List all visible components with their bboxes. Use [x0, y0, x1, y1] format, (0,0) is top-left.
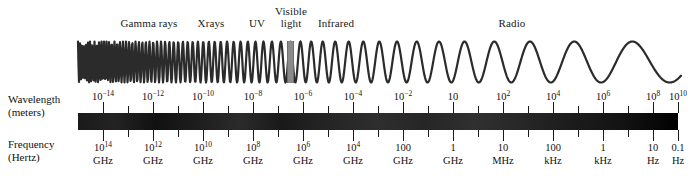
- wavelength-tick-minor: [478, 106, 479, 113]
- frequency-tick-major: [303, 130, 304, 141]
- frequency-tick-minor: [378, 130, 379, 137]
- wavelength-value: 10−10: [178, 91, 228, 103]
- frequency-tick-minor: [178, 130, 179, 137]
- frequency-tick-major: [353, 130, 354, 141]
- frequency-tick-major: [653, 130, 654, 141]
- frequency-value: 0.1Hz: [653, 142, 691, 167]
- frequency-value: 100kHz: [528, 142, 578, 167]
- frequency-axis-caption: Frequency (Hertz): [8, 138, 80, 163]
- wavelength-value: 10−6: [278, 91, 328, 103]
- wavelength-tick-major: [403, 102, 404, 113]
- frequency-tick-minor: [428, 130, 429, 137]
- frequency-value: 106GHz: [278, 142, 328, 167]
- wavelength-value: 10−8: [228, 91, 278, 103]
- frequency-tick-major: [453, 130, 454, 141]
- frequency-tick-minor: [278, 130, 279, 137]
- wavelength-tick-major: [253, 102, 254, 113]
- frequency-tick-major: [253, 130, 254, 141]
- frequency-tick-major: [553, 130, 554, 141]
- wavelength-tick-minor: [328, 106, 329, 113]
- spectrum-bar: [78, 113, 678, 130]
- wavelength-value: 10−12: [128, 91, 178, 103]
- wavelength-tick-minor: [628, 106, 629, 113]
- frequency-tick-minor: [128, 130, 129, 137]
- frequency-value: 1kHz: [578, 142, 628, 167]
- wavelength-tick-major: [203, 102, 204, 113]
- wavelength-value: 106: [578, 91, 628, 103]
- frequency-value: 108GHz: [228, 142, 278, 167]
- wavelength-tick-major: [678, 102, 679, 113]
- frequency-value: 1012GHz: [128, 142, 178, 167]
- wavelength-value: 10−4: [328, 91, 378, 103]
- frequency-value: 1GHz: [428, 142, 478, 167]
- wavelength-tick-minor: [128, 106, 129, 113]
- wavelength-value: 10−14: [78, 91, 128, 103]
- wavelength-tick-minor: [278, 106, 279, 113]
- wavelength-tick-major: [103, 102, 104, 113]
- wavelength-tick-major: [653, 102, 654, 113]
- wavelength-tick-major: [503, 102, 504, 113]
- frequency-tick-major: [678, 130, 679, 141]
- wavelength-tick-major: [303, 102, 304, 113]
- frequency-tick-minor: [578, 130, 579, 137]
- frequency-value: 1010GHz: [178, 142, 228, 167]
- wavelength-tick-minor: [428, 106, 429, 113]
- wavelength-tick-minor: [178, 106, 179, 113]
- wavelength-tick-minor: [578, 106, 579, 113]
- wavelength-tick-major: [353, 102, 354, 113]
- wavelength-tick-minor: [378, 106, 379, 113]
- frequency-tick-minor: [478, 130, 479, 137]
- frequency-tick-minor: [228, 130, 229, 137]
- wavelength-tick-major: [153, 102, 154, 113]
- frequency-value: 104GHz: [328, 142, 378, 167]
- wavelength-value: 1010: [653, 91, 691, 103]
- visible-light-marker: [287, 41, 294, 83]
- frequency-tick-major: [403, 130, 404, 141]
- wavelength-axis-caption: Wavelength (meters): [8, 93, 80, 118]
- frequency-tick-minor: [528, 130, 529, 137]
- wavelength-value: 10: [428, 91, 478, 103]
- wavelength-tick-minor: [528, 106, 529, 113]
- wavelength-tick-major: [553, 102, 554, 113]
- frequency-value: 100GHz: [378, 142, 428, 167]
- wavelength-value: 10−2: [378, 91, 428, 103]
- frequency-tick-minor: [628, 130, 629, 137]
- wavelength-tick-major: [453, 102, 454, 113]
- frequency-tick-major: [603, 130, 604, 141]
- frequency-tick-minor: [328, 130, 329, 137]
- wavelength-value: 102: [478, 91, 528, 103]
- em-spectrum-figure: Gamma rays Xrays UV Visible light Infrar…: [0, 0, 691, 179]
- wavelength-tick-minor: [228, 106, 229, 113]
- wavelength-value: 104: [528, 91, 578, 103]
- wavelength-tick-major: [603, 102, 604, 113]
- frequency-tick-major: [503, 130, 504, 141]
- frequency-value: 1014GHz: [78, 142, 128, 167]
- frequency-value: 10MHz: [478, 142, 528, 167]
